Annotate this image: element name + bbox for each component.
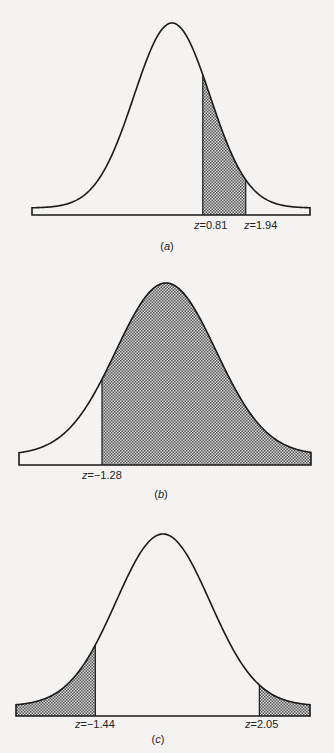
panel-b: z=−1.28(b): [19, 283, 311, 500]
panel-a: z=0.81z=1.94(a): [32, 23, 310, 252]
shaded-area: [16, 645, 95, 716]
z-value-label: z=1.94: [243, 219, 277, 231]
z-value-label: z=−1.28: [81, 469, 122, 481]
normal-curve: [32, 23, 310, 215]
normal-curve: [16, 534, 310, 716]
panel-caption: (c): [152, 733, 165, 745]
normal-curves-figure: z=0.81z=1.94(a) z=−1.28(b) z=−1.44z=2.05…: [0, 0, 334, 753]
panel-c: z=−1.44z=2.05(c): [16, 534, 310, 745]
z-value-label: z=0.81: [193, 219, 227, 231]
shaded-area: [102, 283, 311, 465]
z-value-label: z=2.05: [244, 718, 278, 730]
panel-caption: (b): [154, 488, 167, 500]
panel-caption: (a): [160, 240, 173, 252]
z-value-label: z=−1.44: [74, 718, 115, 730]
